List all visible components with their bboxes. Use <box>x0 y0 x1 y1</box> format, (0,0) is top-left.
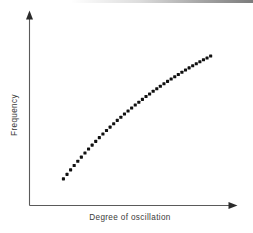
data-point <box>83 151 86 154</box>
data-point <box>123 112 126 115</box>
data-point <box>209 55 212 58</box>
y-axis-label: Frequency <box>10 94 19 136</box>
data-point <box>173 75 176 78</box>
data-point <box>80 156 83 159</box>
data-point <box>152 90 155 93</box>
data-point <box>98 136 101 139</box>
data-point <box>65 173 68 176</box>
data-point <box>69 168 72 171</box>
data-point <box>198 60 201 63</box>
data-point <box>166 80 169 83</box>
data-point-group <box>62 55 212 181</box>
data-point <box>62 177 65 180</box>
data-point <box>112 122 115 125</box>
data-point <box>109 126 112 129</box>
y-axis-arrowhead <box>26 11 33 20</box>
data-point <box>170 77 173 80</box>
data-point <box>127 109 130 112</box>
data-point <box>116 119 119 122</box>
data-point <box>94 140 97 143</box>
data-point <box>141 98 144 101</box>
data-point <box>162 82 165 85</box>
data-point <box>137 101 140 104</box>
data-point <box>184 68 187 71</box>
data-point <box>148 92 151 95</box>
data-point <box>119 116 122 119</box>
data-point <box>159 85 162 88</box>
data-point <box>191 64 194 67</box>
data-point <box>177 73 180 76</box>
x-axis-label: Degree of oscillation <box>89 213 171 222</box>
data-point <box>134 103 137 106</box>
scatter-plot: Degree of oscillation Frequency <box>0 0 253 233</box>
data-point <box>144 95 147 98</box>
x-axis-arrowhead <box>229 202 238 209</box>
data-point <box>180 71 183 74</box>
data-point <box>105 129 108 132</box>
data-point <box>130 106 133 109</box>
data-point <box>101 133 104 136</box>
data-point <box>87 148 90 151</box>
data-point <box>91 144 94 147</box>
data-point <box>73 164 76 167</box>
data-point <box>188 66 191 69</box>
data-point <box>155 87 158 90</box>
data-point <box>76 160 79 163</box>
data-point <box>206 56 209 59</box>
data-point <box>195 62 198 65</box>
chart-figure: Degree of oscillation Frequency <box>0 0 253 233</box>
data-point <box>202 58 205 61</box>
